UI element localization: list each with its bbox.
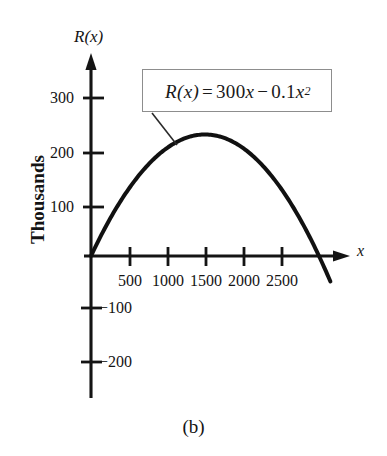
figure-canvas: R(x) = 300x − 0.1x2 R(x) x Thousands 300… xyxy=(0,0,387,456)
y-axis-name-label: R(x) xyxy=(74,28,103,45)
equation-term1-coef: 300 xyxy=(216,81,245,103)
equation-text: R(x) = 300x − 0.1x2 xyxy=(143,70,333,113)
equation-lhs: R(x) xyxy=(165,81,199,103)
y-tick-label-200: 200 xyxy=(28,145,74,161)
y-tick-label-minus-200: −200 xyxy=(99,354,155,370)
annotation-leader-line xyxy=(152,113,177,145)
y-tick-label-300: 300 xyxy=(28,90,74,106)
x-tick-label-2500: 2500 xyxy=(259,273,305,289)
figure-caption: (b) xyxy=(0,417,387,436)
y-axis-arrowhead xyxy=(85,53,96,70)
equation-minus: − xyxy=(254,81,271,103)
x-axis-arrowhead xyxy=(333,250,350,261)
equation-term1-var: x xyxy=(245,81,254,103)
y-tick-label-100: 100 xyxy=(28,199,74,215)
equation-callout-box: R(x) = 300x − 0.1x2 xyxy=(142,69,332,112)
y-tick-label-minus-100: −100 xyxy=(99,300,155,316)
equation-equals: = xyxy=(199,81,216,103)
equation-term2-exponent: 2 xyxy=(305,84,311,99)
equation-term2-var: x xyxy=(296,81,305,103)
revenue-curve-path xyxy=(91,135,330,282)
equation-term2-coef: 0.1 xyxy=(271,81,296,103)
x-axis-name-label: x xyxy=(357,243,364,259)
